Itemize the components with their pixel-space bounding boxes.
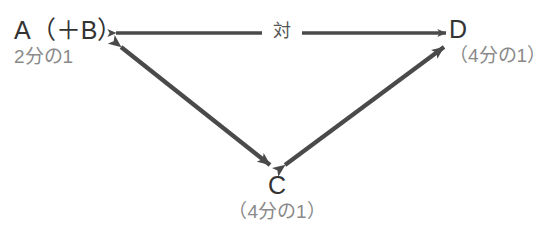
node-d-label: D xyxy=(449,16,546,42)
node-c: C （4分の1） xyxy=(212,172,342,224)
diagram-canvas: A（＋B） 2分の1 D （4分の1） C （4分の1） 対 xyxy=(0,0,558,238)
node-c-sublabel: （4分の1） xyxy=(212,200,342,224)
node-d-sublabel: （4分の1） xyxy=(449,44,546,68)
edge-c-d xyxy=(285,47,444,165)
edge-c-d-line xyxy=(285,47,444,165)
node-d: D （4分の1） xyxy=(449,16,546,68)
node-a-label: A（＋B） xyxy=(14,17,122,43)
edge-a-c xyxy=(121,47,270,165)
node-c-label: C xyxy=(212,172,342,198)
edge-a-c-line xyxy=(121,47,270,165)
edge-a-d-label: 対 xyxy=(262,20,302,43)
node-a: A（＋B） 2分の1 xyxy=(14,17,122,69)
node-a-sublabel: 2分の1 xyxy=(14,45,122,69)
